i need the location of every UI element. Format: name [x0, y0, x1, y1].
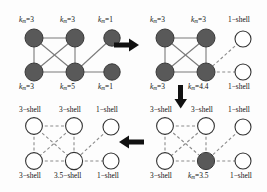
- label-bl-top-middle: 3−shell: [59, 106, 81, 114]
- figure-canvas: km=3 km=3 km=1 km=3 km=5 km=1: [0, 0, 267, 192]
- node-tl-bottom-middle[interactable]: [66, 63, 84, 81]
- node-tl-bottom-left[interactable]: [25, 63, 43, 81]
- node-br-top-middle[interactable]: [198, 118, 215, 135]
- node-br-top-right[interactable]: [235, 119, 251, 135]
- label-tl-bottom-left: km=3: [19, 83, 34, 92]
- label-tl-bottom-middle: km=5: [60, 83, 75, 92]
- node-bl-bottom-right[interactable]: [103, 153, 119, 169]
- label-bl-bottom-middle: 3.5−shell: [54, 172, 81, 180]
- node-br-bottom-left[interactable]: [157, 153, 174, 170]
- label-bl-bottom-right: 1−shell: [97, 172, 119, 180]
- node-br-bottom-right[interactable]: [235, 153, 251, 169]
- label-tl-top-left: km=3: [19, 16, 34, 25]
- label-tr-top-right: 1−shell: [228, 16, 250, 24]
- node-br-top-left[interactable]: [157, 118, 174, 135]
- label-tr-top-left: km=3: [150, 16, 165, 25]
- label-br-bottom-middle: km=3.5: [188, 172, 208, 181]
- label-tr-bottom-left: km=3: [150, 83, 165, 92]
- label-bl-top-left: 3−shell: [19, 106, 41, 114]
- label-tl-top-middle: km=3: [60, 16, 75, 25]
- node-group: [157, 118, 251, 170]
- node-tl-top-middle[interactable]: [66, 29, 84, 47]
- node-br-bottom-middle[interactable]: [197, 152, 214, 169]
- label-tl-top-right: km=1: [98, 16, 113, 25]
- node-group: [26, 118, 119, 170]
- label-br-top-middle: 3−shell: [191, 106, 213, 114]
- label-br-bottom-right: 1−shell: [230, 172, 252, 180]
- label-br-bottom-left: 3−shell: [150, 172, 172, 180]
- node-tl-top-left[interactable]: [25, 29, 43, 47]
- node-tr-top-middle[interactable]: [197, 29, 215, 47]
- label-tr-bottom-right: 1−shell: [228, 83, 250, 91]
- label-bl-top-right: 1−shell: [96, 106, 118, 114]
- panel-bottom-left: 3−shell 3−shell 1−shell 3−shell 3.5−shel…: [0, 96, 133, 192]
- node-bl-top-right[interactable]: [103, 119, 119, 135]
- label-tl-bottom-right: km=1: [98, 83, 113, 92]
- panel-bottom-right: 3−shell 3−shell 1−shell 3−shell km=3.5 1…: [133, 96, 267, 192]
- node-tr-top-left[interactable]: [156, 29, 174, 47]
- node-group: [156, 29, 251, 81]
- node-tr-bottom-middle[interactable]: [197, 63, 215, 81]
- label-br-top-right: 1−shell: [228, 106, 250, 114]
- node-bl-top-middle[interactable]: [66, 118, 83, 135]
- panel-top-right: km=3 km=3 1−shell km=3 km=4.4 1−shell: [133, 0, 267, 96]
- label-br-top-left: 3−shell: [150, 106, 172, 114]
- node-bl-bottom-middle[interactable]: [65, 152, 82, 169]
- label-tr-top-middle: km=3: [191, 16, 206, 25]
- label-tr-bottom-middle: km=4.4: [188, 83, 208, 92]
- node-tr-top-right[interactable]: [235, 31, 251, 47]
- label-bl-bottom-left: 3−shell: [19, 172, 41, 180]
- node-tl-bottom-right[interactable]: [104, 64, 120, 80]
- node-tr-bottom-left[interactable]: [156, 63, 174, 81]
- node-group: [25, 29, 120, 81]
- node-tr-bottom-right[interactable]: [235, 64, 251, 80]
- node-bl-top-left[interactable]: [26, 118, 43, 135]
- node-bl-bottom-left[interactable]: [26, 153, 43, 170]
